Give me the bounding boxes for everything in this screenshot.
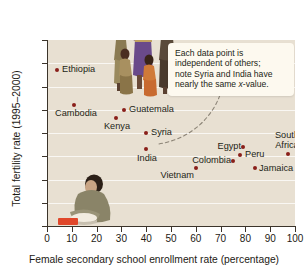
data-point-vietnam [194,166,198,170]
x-tick-label-30: 30 [116,233,127,244]
x-tick-90 [270,227,271,232]
x-tick-40 [146,227,147,232]
point-label-egypt: Egypt [218,142,242,151]
point-label-ethiopia: Ethiopia [62,66,95,75]
x-tick-0 [47,227,48,232]
reader-illustration [48,166,120,226]
annotation-box: Each data point is independent of others… [168,43,294,96]
x-tick-label-80: 80 [240,233,251,244]
annotation-line-4: nearly the same x-value. [175,79,288,89]
x-tick-100 [295,227,296,232]
x-tick-70 [221,227,222,232]
x-tick-80 [245,227,246,232]
y-axis-title: Total fertility rate (1995–2000) [11,39,22,239]
point-label-peru: Peru [245,150,264,159]
point-label-guatemala: Guatemala [129,105,174,114]
point-label-jamaica: Jamaica [259,164,293,173]
x-tick-20 [97,227,98,232]
x-tick-30 [121,227,122,232]
point-label-south-africa: SouthAfrica [275,130,295,150]
y-tick-7 [42,63,47,64]
plot-area: Ethiopia Cambodia Kenya Guatemala Syria … [47,40,295,226]
fertility-vs-enrollment-figure: Ethiopia Cambodia Kenya Guatemala Syria … [0,0,308,275]
y-tick-6 [42,87,47,88]
x-tick-label-50: 50 [165,233,176,244]
data-point-jamaica [253,166,257,170]
x-axis-title: Female secondary school enrollment rate … [0,254,308,265]
annotation-line-2: independent of others; [175,58,288,68]
x-tick-label-10: 10 [66,233,77,244]
y-tick-5 [42,110,47,111]
point-label-colombia: Colombia [192,156,231,165]
x-tick-label-70: 70 [215,233,226,244]
x-tick-label-60: 60 [190,233,201,244]
y-tick-8 [42,40,47,41]
point-label-kenya: Kenya [104,122,130,131]
x-tick-50 [171,227,172,232]
data-point-peru [238,153,242,157]
y-tick-3 [42,156,47,157]
data-point-south-africa [286,152,290,156]
data-point-cambodia [72,103,76,107]
y-tick-2 [42,180,47,181]
x-tick-label-0: 0 [44,233,50,244]
x-tick-label-40: 40 [141,233,152,244]
data-point-syria [144,131,148,135]
x-tick-60 [196,227,197,232]
annotation-line-1: Each data point is [175,48,288,58]
data-point-india [144,147,148,151]
x-tick-label-20: 20 [91,233,102,244]
annotation-line-4-b: -value. [243,79,269,89]
point-label-india: India [137,154,157,163]
annotation-line-4-a: nearly the same [175,79,239,89]
point-label-cambodia: Cambodia [55,109,97,118]
x-tick-10 [72,227,73,232]
data-point-ethiopia [55,68,59,72]
x-tick-label-90: 90 [265,233,276,244]
annotation-line-3: note Syria and India have [175,69,288,79]
y-axis-line [47,40,48,227]
data-point-egypt [241,145,245,149]
point-label-vietnam: Vietnam [160,171,194,180]
y-tick-4 [42,133,47,134]
data-point-kenya [114,116,118,120]
x-tick-label-100: 100 [287,233,304,244]
y-tick-1 [42,203,47,204]
data-point-guatemala [122,108,126,112]
point-label-syria: Syria [151,128,172,137]
data-point-colombia [231,159,235,163]
